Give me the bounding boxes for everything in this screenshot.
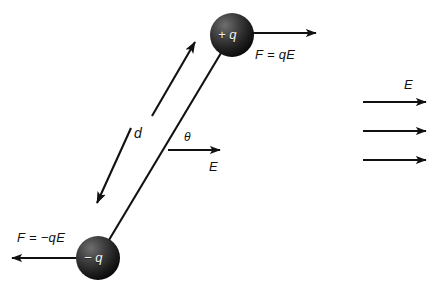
separation-arrow-lower bbox=[97, 128, 131, 203]
force-negative-label: F = −qE bbox=[17, 231, 65, 244]
positive-charge-label: + q bbox=[218, 28, 236, 41]
angle-label: θ bbox=[184, 131, 191, 143]
field-label: E bbox=[404, 78, 413, 91]
force-positive-label: F = qE bbox=[255, 48, 295, 61]
center-field-label: E bbox=[209, 160, 218, 173]
separation-arrow-upper bbox=[152, 42, 195, 116]
diagram-canvas bbox=[0, 0, 439, 288]
dipole-diagram: + q − q F = qE F = −qE d θ E E bbox=[0, 0, 439, 288]
dipole-axis-line bbox=[100, 38, 230, 255]
separation-label: d bbox=[134, 126, 142, 140]
negative-charge-label: − q bbox=[84, 251, 102, 264]
